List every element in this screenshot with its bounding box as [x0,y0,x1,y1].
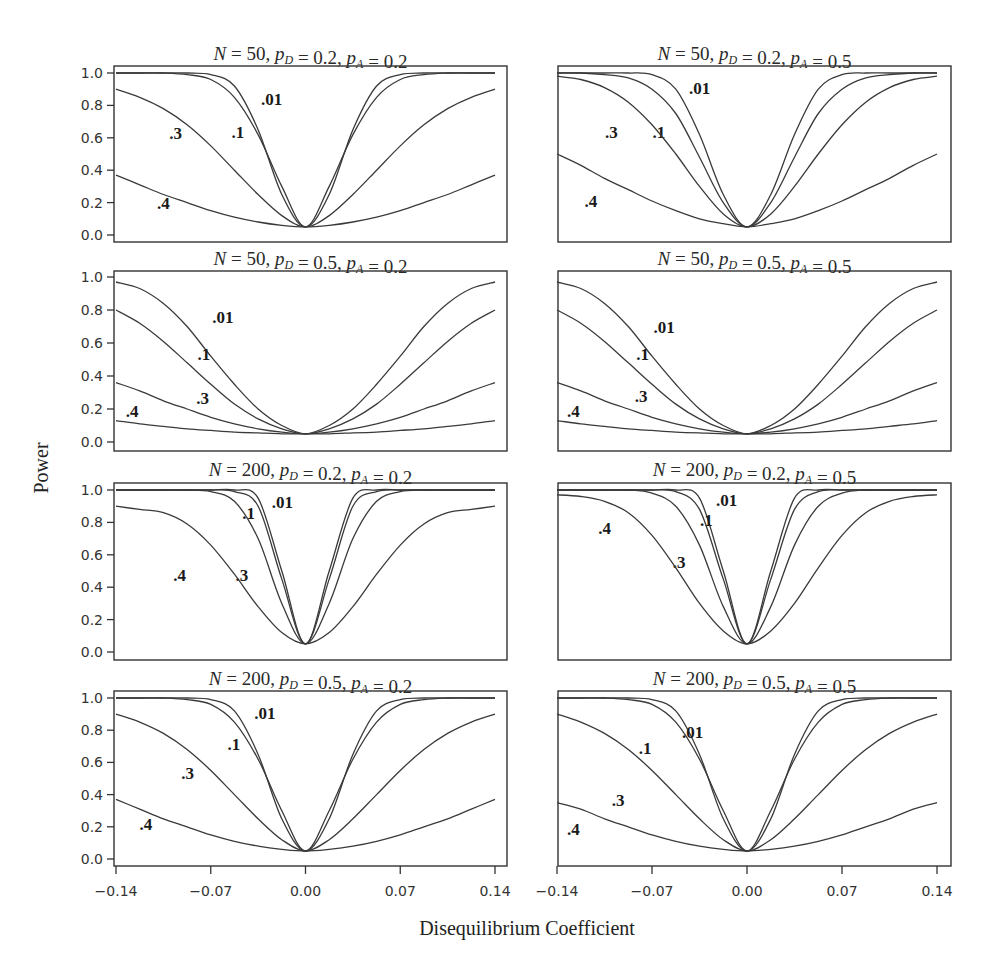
y-tick-label: 1.0 [81,690,103,706]
panel-title: N = 200, pD = 0.5, pA = 0.5 [652,668,856,697]
panel-1: N = 50, pD = 0.2, pA = 0.20.00.20.40.60.… [81,43,507,243]
curve-label: .1 [231,123,244,142]
power-curve-alpha-3 [557,76,937,227]
x-tick-label: 0.00 [290,883,321,899]
y-tick-label: 0.4 [81,787,103,803]
power-curve-alpha-3 [116,89,495,227]
curve-label: .01 [682,723,703,742]
power-curve-alpha-1 [116,698,495,851]
curve-label: .3 [635,387,648,406]
x-tick-label: −0.07 [189,883,232,899]
y-tick-label: 0.8 [81,97,103,113]
panel-6: N = 200, pD = 0.2, pA = 0.5.01.1.3.4 [557,459,951,660]
y-tick-label: 0.8 [81,722,103,738]
curve-label: .3 [673,553,686,572]
power-curve-alpha-1 [116,310,495,434]
power-curve-alpha-3 [557,383,937,434]
power-curve-alpha-01 [557,73,937,227]
panel-8: N = 200, pD = 0.5, pA = 0.5−0.14−0.070.0… [536,668,953,899]
x-tick-label: 0.00 [731,883,762,899]
power-curve-alpha-4 [557,154,937,227]
power-curve-alpha-4 [557,495,937,644]
panel-4: N = 50, pD = 0.5, pA = 0.5.01.1.3.4 [557,248,951,451]
y-tick-label: 0.6 [81,335,103,351]
power-curve-alpha-1 [557,698,937,851]
y-tick-label: 0.4 [81,579,103,595]
x-tick-label: 0.07 [826,883,857,899]
curve-label: .01 [212,308,233,327]
panel-frame [114,691,507,866]
curve-label: .1 [227,735,240,754]
y-tick-label: 1.0 [81,482,103,498]
y-tick-label: 0.2 [81,612,103,628]
power-curve-alpha-4 [116,175,495,227]
curve-label: .01 [716,491,737,510]
power-curve-alpha-1 [557,310,937,434]
y-tick-label: 0.6 [81,547,103,563]
power-curve-alpha-1 [557,73,937,227]
curve-label: .4 [157,194,170,213]
curve-label: .1 [198,345,211,364]
curve-label: .01 [654,318,675,337]
x-axis-label: Disequilibrium Coefficient [419,917,635,940]
power-curve-alpha-01 [557,282,937,434]
curve-label: .4 [567,820,580,839]
y-tick-label: 0.2 [81,819,103,835]
curve-label: .3 [196,389,209,408]
panel-title: N = 50, pD = 0.2, pA = 0.5 [657,43,852,72]
power-curve-alpha-01 [116,698,495,851]
panel-frame [114,66,507,242]
x-tick-label: 0.07 [385,883,416,899]
curve-label: .01 [272,493,293,512]
y-tick-label: 0.6 [81,130,103,146]
power-curve-alpha-3 [557,714,937,851]
power-curve-alpha-3 [557,490,937,644]
y-axis-label: Power [30,442,52,493]
power-curve-alpha-01 [116,282,495,434]
panel-title: N = 50, pD = 0.5, pA = 0.2 [213,248,408,277]
panel-title: N = 50, pD = 0.5, pA = 0.5 [657,248,852,277]
curve-label: .3 [181,764,194,783]
curve-label: .3 [236,566,249,585]
curve-label: .4 [598,519,611,538]
power-curve-alpha-4 [116,421,495,434]
y-tick-label: 0.0 [81,227,103,243]
power-curve-alpha-01 [557,489,937,644]
power-curve-alpha-4 [116,799,495,851]
y-tick-label: 1.0 [81,269,103,285]
panel-frame [114,271,507,451]
panel-title: N = 50, pD = 0.2, pA = 0.2 [213,43,408,72]
y-tick-label: 0.8 [81,514,103,530]
x-tick-label: 0.14 [479,883,510,899]
curve-label: .1 [700,511,713,530]
panel-frame [558,271,951,451]
panel-frame [558,691,951,866]
y-tick-label: 0.0 [81,644,103,660]
curve-label: .4 [173,566,186,585]
y-tick-label: 0.2 [81,401,103,417]
curve-label: .3 [169,124,182,143]
x-tick-label: −0.07 [631,883,674,899]
curve-label: .3 [612,791,625,810]
y-tick-label: 0.4 [81,162,103,178]
y-tick-label: 0.0 [81,851,103,867]
power-curve-alpha-01 [116,73,495,227]
x-tick-label: 0.14 [921,883,952,899]
curve-label: .01 [261,90,282,109]
curve-label: .4 [126,402,139,421]
y-tick-label: 0.0 [81,434,103,450]
power-curve-alpha-3 [116,383,495,434]
x-tick-label: −0.14 [95,883,138,899]
power-curve-alpha-1 [116,73,495,227]
y-tick-label: 0.6 [81,754,103,770]
curve-label: .3 [605,123,618,142]
power-curve-alpha-1 [557,490,937,644]
y-tick-label: 0.2 [81,195,103,211]
y-tick-label: 0.8 [81,302,103,318]
y-tick-label: 0.4 [81,368,103,384]
power-curves-figure: N = 50, pD = 0.2, pA = 0.20.00.20.40.60.… [0,0,995,979]
y-tick-label: 1.0 [81,65,103,81]
panel-title: N = 200, pD = 0.5, pA = 0.2 [208,668,412,697]
curve-label: .4 [567,402,580,421]
curve-label: .1 [639,739,652,758]
